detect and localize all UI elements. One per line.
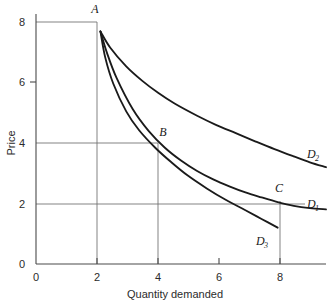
x-tick-label-8: 8 bbox=[277, 271, 283, 283]
x-tick-label-2: 2 bbox=[94, 271, 100, 283]
y-tick-label-2: 2 bbox=[19, 198, 25, 210]
demand-curves bbox=[100, 31, 326, 227]
curve-label-d3-subscript: 3 bbox=[263, 241, 268, 250]
y-tick-labels: 8 6 4 2 0 bbox=[19, 16, 25, 270]
x-tick-labels: 0 2 4 6 8 bbox=[33, 271, 283, 283]
curve-label-d1: D 1 bbox=[306, 197, 319, 213]
y-tick-label-4: 4 bbox=[19, 137, 25, 149]
demand-curve-d3 bbox=[100, 31, 277, 227]
x-tick-label-4: 4 bbox=[155, 271, 161, 283]
curve-label-d2-subscript: 2 bbox=[315, 154, 319, 163]
axes bbox=[30, 14, 326, 264]
x-tick-label-6: 6 bbox=[216, 271, 222, 283]
curve-label-d3: D 3 bbox=[255, 234, 268, 250]
y-tick-label-6: 6 bbox=[19, 76, 25, 88]
reference-lines bbox=[36, 22, 305, 264]
y-axis-title: Price bbox=[5, 130, 17, 155]
x-axis-title: Quantity demanded bbox=[127, 288, 223, 300]
point-label-a: A bbox=[90, 2, 99, 16]
point-label-c: C bbox=[275, 181, 284, 195]
x-tick-label-0: 0 bbox=[33, 271, 39, 283]
point-label-b: B bbox=[159, 125, 167, 139]
curve-label-d2: D 2 bbox=[306, 147, 319, 163]
demand-curve-figure: 8 6 4 2 0 0 2 4 6 8 Price Quantity deman… bbox=[0, 0, 332, 304]
curve-label-d1-subscript: 1 bbox=[315, 204, 319, 213]
demand-curve-d1 bbox=[100, 31, 326, 209]
y-tick-label-0: 0 bbox=[19, 258, 25, 270]
demand-curve-d2 bbox=[100, 31, 326, 167]
y-tick-label-8: 8 bbox=[19, 16, 25, 28]
chart-svg: 8 6 4 2 0 0 2 4 6 8 Price Quantity deman… bbox=[0, 0, 332, 304]
